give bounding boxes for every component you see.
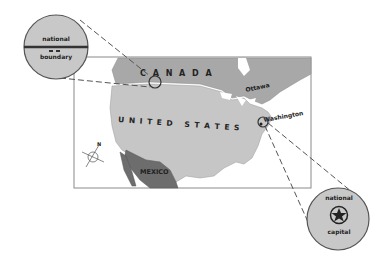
washington-marker [260,123,263,126]
boundary-label-1: national [42,35,70,42]
capital-label-1: national [325,194,353,201]
capital-label-2: capital [328,228,351,236]
boundary-label-2: boundary [40,53,72,61]
label-mexico: MEXICO [140,168,169,176]
label-canada: C A N A D A [140,69,214,78]
compass-north: N [97,141,101,147]
north-america-map: C A N A D A U N I T E D S T A T E S MEXI… [0,0,389,267]
